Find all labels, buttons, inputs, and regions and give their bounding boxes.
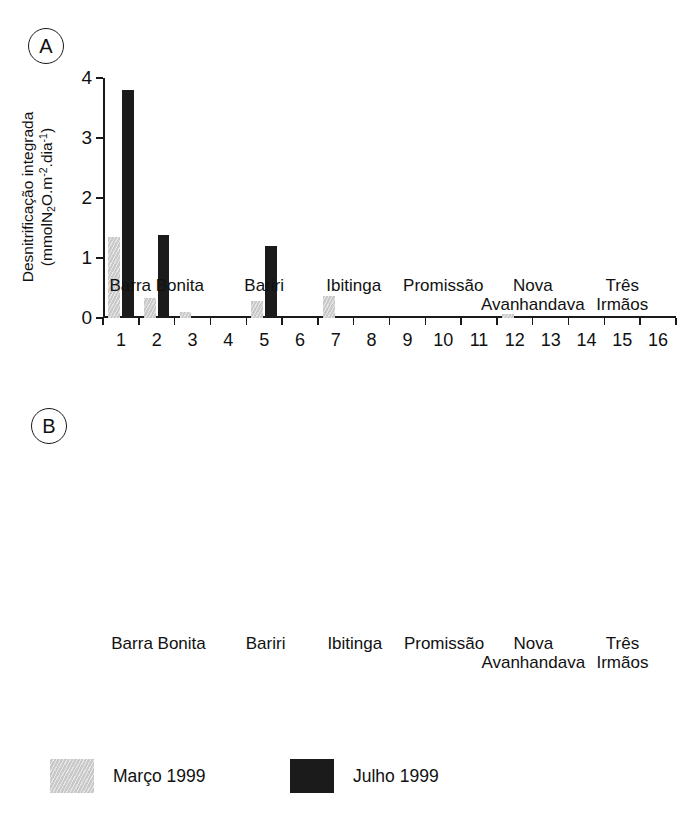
a-x-tick [353,318,354,325]
reservoir-label-line1: Ibitinga [327,634,382,653]
station-label-15: 15 [612,330,632,351]
reservoir-label-três-irmãos: TrêsIrmãos [596,634,648,672]
a-y-tick [96,257,103,259]
reservoir-label-line1: Bariri [244,276,284,295]
reservoir-label-line1: Promissão [404,634,484,653]
a-x-tick [639,318,640,325]
legend-item-julho: Julho 1999 [290,759,439,793]
reservoir-label-line2: Avanhandava [481,653,585,672]
a-x-tick [389,318,390,325]
reservoir-label-nova-avanhandava: NovaAvanhandava [481,634,585,672]
panel-a-y-axis-title-line2: (mmolN2O.m-2.dia-1) [37,72,58,322]
bar-marco-station-5 [251,301,263,318]
reservoir-label-line1: Ibitinga [326,276,381,295]
a-x-tick [568,318,569,325]
reservoir-label-line1: Promissão [403,276,483,295]
reservoir-label-três-irmãos: TrêsIrmãos [596,276,648,314]
a-y-tick-label: 1 [81,247,92,269]
reservoir-label-line1: Nova [513,634,553,653]
a-x-tick [317,318,318,325]
a-y-tick-label: 4 [81,67,92,89]
reservoir-label-barra-bonita: Barra Bonita [109,276,204,295]
reservoir-label-bariri: Bariri [246,634,286,653]
a-x-tick [675,318,676,325]
reservoir-label-bariri: Bariri [244,276,284,295]
panel-b: B Oxigênio dissolvido (mg.ℓ-1) 0246810 1… [0,390,696,720]
reservoir-label-line1: Três [606,634,639,653]
legend-swatch-marco [50,759,94,793]
reservoir-label-line2: Irmãos [596,295,648,314]
reservoir-label-nova-avanhandava: NovaAvanhandava [481,276,585,314]
reservoir-label-line1: Bariri [246,634,286,653]
a-x-tick [210,318,211,325]
legend: Março 1999Julho 1999 [0,755,696,811]
a-y-tick-label: 0 [81,307,92,329]
reservoir-label-ibitinga: Ibitinga [327,634,382,653]
bar-marco-station-12 [502,314,514,318]
station-label-4: 4 [223,330,233,351]
station-label-6: 6 [295,330,305,351]
a-x-tick [425,318,426,325]
panel-a-y-axis-title-line1: Desnitrificação integrada [19,112,36,283]
reservoir-label-line1: Três [606,276,639,295]
reservoir-label-promissão: Promissão [403,276,483,295]
legend-swatch-julho [290,759,334,793]
legend-item-marco: Março 1999 [50,759,205,793]
a-x-tick [532,318,533,325]
reservoir-label-line1: Barra Bonita [111,634,206,653]
a-x-tick [102,318,103,325]
bar-marco-station-2 [144,298,156,318]
a-x-tick [138,318,139,325]
reservoir-label-line1: Barra Bonita [109,276,204,295]
panel-a-y-axis [103,78,105,318]
reservoir-label-line1: Nova [513,276,553,295]
a-x-tick [496,318,497,325]
figure-denitrification-dissolved-oxygen: A Desnitrificação integrada (mmolN2O.m-2… [0,0,696,826]
station-label-16: 16 [648,330,668,351]
panel-a: A Desnitrificação integrada (mmolN2O.m-2… [0,0,696,390]
station-label-14: 14 [576,330,596,351]
reservoir-label-line2: Irmãos [596,653,648,672]
panel-b-tag: B [31,408,67,444]
station-label-11: 11 [470,330,489,351]
station-label-9: 9 [402,330,412,351]
a-x-tick [281,318,282,325]
reservoir-label-barra-bonita: Barra Bonita [111,634,206,653]
station-label-3: 3 [188,330,198,351]
a-y-tick-label: 2 [81,187,92,209]
reservoir-label-line2: Avanhandava [481,295,585,314]
a-x-tick [604,318,605,325]
bar-marco-station-3 [180,312,192,318]
station-label-8: 8 [367,330,377,351]
a-y-tick [96,77,103,79]
panel-a-y-axis-title: Desnitrificação integrada (mmolN2O.m-2.d… [18,72,58,322]
a-y-tick [96,197,103,199]
a-x-tick [174,318,175,325]
station-label-1: 1 [116,330,126,351]
station-label-7: 7 [331,330,341,351]
station-label-5: 5 [259,330,269,351]
legend-label-marco: Março 1999 [113,766,205,787]
reservoir-label-ibitinga: Ibitinga [326,276,381,295]
legend-label-julho: Julho 1999 [353,766,439,787]
a-y-tick-label: 3 [81,127,92,149]
station-label-10: 10 [433,330,453,351]
bar-marco-station-7 [323,296,335,318]
station-label-13: 13 [541,330,561,351]
station-label-12: 12 [505,330,525,351]
a-x-tick [246,318,247,325]
station-label-2: 2 [152,330,162,351]
a-y-tick [96,137,103,139]
reservoir-label-promissão: Promissão [404,634,484,653]
panel-a-tag: A [28,28,64,64]
a-x-tick [460,318,461,325]
